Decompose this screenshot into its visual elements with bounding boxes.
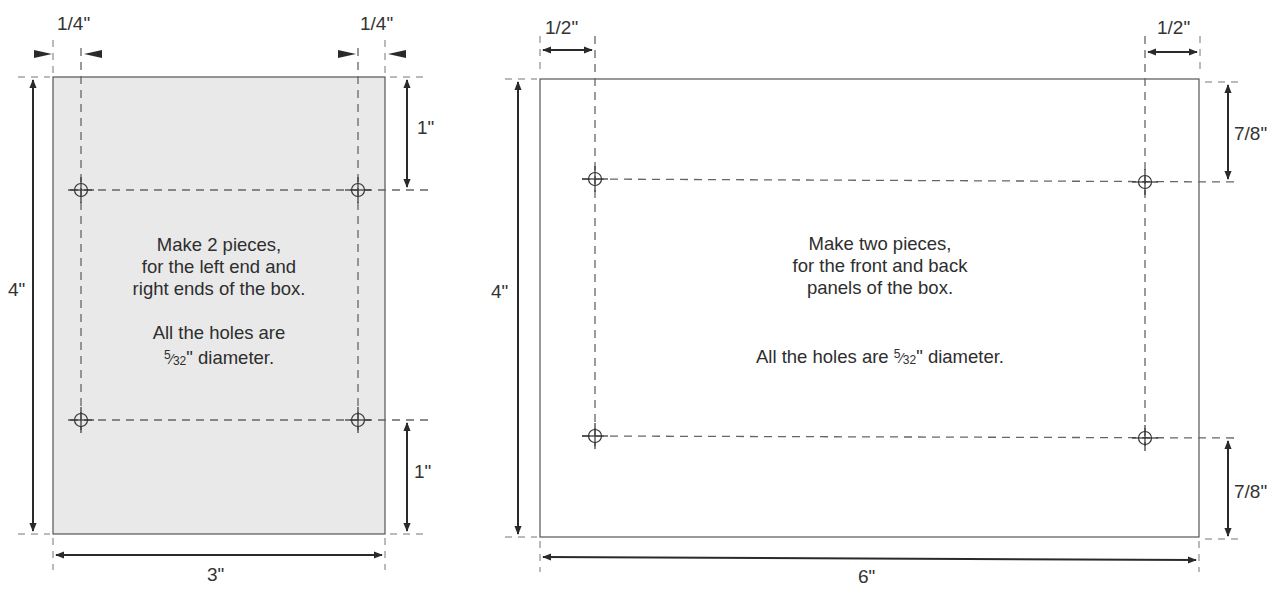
left-height-label: 4" (8, 280, 25, 299)
note-line: for the front and back (730, 255, 1030, 277)
right-top-offset-label: 7/8" (1234, 124, 1267, 143)
hole-note: All the holes are (99, 322, 339, 344)
right-height-label: 4" (491, 282, 508, 301)
left-inset-right-label: 1/4" (360, 14, 393, 33)
left-bottom-offset-label: 1" (414, 462, 431, 481)
left-note: Make 2 pieces, for the left end and righ… (99, 234, 339, 372)
arrow-left-icon (388, 50, 406, 58)
hole-diameter-fraction: 5⁄32 (894, 350, 916, 366)
note-line: Make 2 pieces, (99, 234, 339, 256)
hole-diameter-note: All the holes are 5⁄32" diameter. (730, 343, 1030, 371)
left-inset-left-label: 1/4" (57, 14, 90, 33)
note-line: Make two pieces, (730, 233, 1030, 255)
arrow-right-icon (34, 50, 52, 58)
right-width-label: 6" (858, 567, 875, 586)
left-width-label: 3" (207, 565, 224, 584)
right-note: Make two pieces, for the front and back … (730, 233, 1030, 371)
hole-diameter-fraction: 5⁄32 (164, 351, 186, 367)
note-line: for the left end and (99, 256, 339, 278)
width-arrow-icon (543, 557, 1196, 560)
left-inset-pointers (34, 50, 406, 58)
right-inset-left-label: 1/2" (545, 18, 578, 37)
arrow-right-icon (338, 50, 356, 58)
hole-diameter-note: 5⁄32" diameter. (99, 344, 339, 372)
note-line: panels of the box. (730, 277, 1030, 299)
right-inset-right-label: 1/2" (1157, 18, 1190, 37)
left-top-offset-label: 1" (417, 118, 434, 137)
right-bottom-offset-label: 7/8" (1234, 482, 1267, 501)
note-line: right ends of the box. (99, 278, 339, 300)
arrow-left-icon (84, 50, 102, 58)
